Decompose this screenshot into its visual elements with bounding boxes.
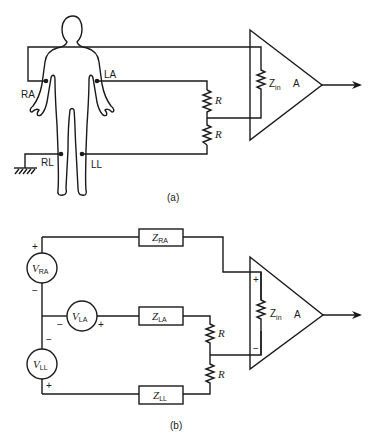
vla-minus: − (57, 319, 63, 330)
impedance-zra: ZRA (139, 229, 183, 246)
vll-plus: + (46, 380, 52, 391)
electrode-ra (44, 79, 49, 84)
ecg-circuit-diagram: RA LA RL LL R R Zin A (a) (0, 0, 371, 442)
panel-b: VRA VLA VLL + − − + − + ZRA ZLA ZLL (27, 229, 362, 431)
vll-minus: − (46, 334, 52, 345)
resistor-top-b-icon (206, 322, 214, 355)
label-ra: RA (21, 89, 35, 100)
caption-b: (b) (170, 420, 182, 431)
vla-plus: + (98, 319, 104, 330)
wire-zll-to-r (183, 388, 210, 394)
label-r-bottom-b: R (217, 368, 225, 380)
svg-text:VRA: VRA (32, 262, 49, 275)
label-la: LA (104, 69, 117, 80)
label-zin: Zin (269, 78, 281, 91)
source-vra: VRA (27, 253, 57, 283)
resistor-top-icon (203, 90, 211, 118)
source-vll: VLL (27, 349, 57, 379)
wire-la-to-r (97, 81, 207, 90)
label-ll: LL (91, 159, 103, 170)
label-zin-b: Zin (270, 308, 282, 321)
caption-a: (a) (167, 192, 179, 203)
impedance-zll: ZLL (139, 386, 183, 404)
amp-minus: − (253, 343, 259, 354)
label-amp-a: A (293, 78, 300, 89)
label-amp-a-b: A (294, 309, 301, 320)
ground-icon (14, 168, 37, 174)
label-r-top-b: R (217, 327, 225, 339)
svg-text:VLL: VLL (33, 358, 48, 371)
svg-text:ZRA: ZRA (152, 231, 168, 244)
impedance-zla: ZLA (139, 307, 183, 325)
amp-plus: + (253, 274, 259, 285)
resistor-bottom-icon (203, 118, 211, 145)
zin-resistor-icon (257, 61, 265, 98)
label-rl: RL (41, 157, 54, 168)
source-vla: VLA (67, 301, 97, 331)
svg-text:VLA: VLA (72, 310, 88, 323)
vra-minus: − (32, 285, 38, 296)
vra-plus: + (32, 241, 38, 252)
wire-zla-to-r (183, 316, 210, 322)
electrode-rl (59, 152, 64, 157)
label-r-top: R (214, 94, 222, 106)
panel-a: RA LA RL LL R R Zin A (a) (14, 16, 362, 203)
wire-ra-to-amp (28, 47, 261, 81)
svg-text:ZLL: ZLL (153, 389, 167, 402)
svg-text:ZLA: ZLA (152, 310, 167, 323)
electrode-ll (80, 152, 85, 157)
label-r-bottom: R (214, 128, 222, 140)
electrode-la (95, 79, 100, 84)
resistor-bottom-b-icon (206, 355, 214, 388)
wire-ll-to-r (82, 145, 207, 154)
